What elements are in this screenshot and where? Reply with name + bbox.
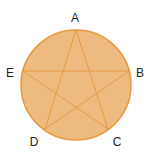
- label-c: C: [113, 135, 122, 149]
- label-b: B: [136, 66, 144, 80]
- pentagram-diagram: A B C D E: [0, 0, 155, 159]
- label-a: A: [71, 11, 79, 25]
- circle: [21, 30, 131, 140]
- label-d: D: [30, 135, 39, 149]
- label-e: E: [6, 66, 14, 80]
